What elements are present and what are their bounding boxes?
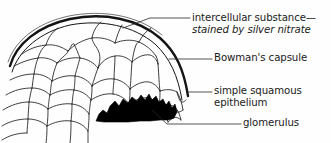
label-glomerulus: glomerulus bbox=[243, 117, 299, 129]
label-intercellular-substance: intercellular substance— stained by silv… bbox=[192, 12, 316, 36]
figure-root: intercellular substance— stained by silv… bbox=[0, 0, 331, 143]
squamous-cell-mosaic bbox=[2, 22, 186, 143]
glomerulus-blob bbox=[96, 94, 177, 122]
label-bowmans-line1: Bowman's capsule bbox=[214, 52, 307, 64]
label-intercellular-line2: stained by silver nitrate bbox=[192, 24, 316, 36]
label-simple-squamous-epithelium: simple squamous epithelium bbox=[214, 85, 302, 109]
capsule-outline bbox=[8, 13, 188, 100]
label-bowmans-capsule: Bowman's capsule bbox=[214, 52, 307, 64]
label-intercellular-line1: intercellular substance— bbox=[192, 12, 316, 24]
label-epithelium-line2: epithelium bbox=[214, 97, 302, 109]
label-glomerulus-line1: glomerulus bbox=[243, 117, 299, 129]
label-epithelium-line1: simple squamous bbox=[214, 85, 302, 97]
